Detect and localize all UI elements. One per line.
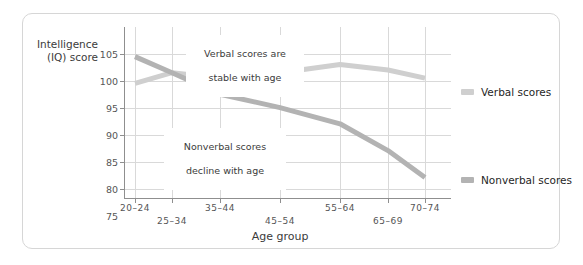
nonverbal-annotation-line-1: Nonverbal scores [168,141,282,153]
x-axis-title: Age group [175,230,385,243]
y-tick-label-105: 105 [92,49,118,60]
legend-swatch-icon-nonverbal [461,177,474,183]
x-tick-label-55-64: 55–64 [313,203,367,213]
y-axis-title: Intelligence (IQ) score [28,38,98,64]
x-tick-mark-65-69 [388,199,389,203]
y-tick-label-95: 95 [92,103,118,114]
nonverbal-annotation: Nonverbal scores decline with age [164,128,286,190]
y-tick-label-90: 90 [92,130,118,141]
y-tick-label-85: 85 [92,157,118,168]
verbal-annotation-line-1: Verbal scores are [190,48,300,60]
x-tick-label-45-54: 45–54 [253,216,307,226]
verbal-annotation: Verbal scores are stable with age [186,35,304,97]
y-tick-label-80: 80 [92,184,118,195]
y-tick-label-100: 100 [92,76,118,87]
x-tick-label-70-74: 70–74 [398,203,452,213]
x-tick-mark-25-34 [172,199,173,203]
legend-swatch-icon-verbal [461,89,474,95]
x-tick-label-20-24: 20–24 [108,203,162,213]
plot-area: Verbal scores are stable with age Nonver… [124,27,451,199]
chart-figure: Intelligence (IQ) score [0,0,583,265]
legend-label-verbal: Verbal scores [481,86,551,98]
legend-item-verbal: Verbal scores [461,86,551,98]
verbal-annotation-line-2: stable with age [190,72,300,84]
x-tick-label-35-44: 35–44 [193,203,247,213]
nonverbal-annotation-line-2: decline with age [168,165,282,177]
x-tick-mark-45-54 [280,199,281,203]
x-tick-label-65-69: 65–69 [361,216,415,226]
y-axis-title-line-2: (IQ) score [28,51,98,64]
legend-item-nonverbal: Nonverbal scores [461,174,572,186]
x-tick-label-25-34: 25–34 [145,216,199,226]
y-axis-title-line-1: Intelligence [28,38,98,51]
legend-label-nonverbal: Nonverbal scores [481,174,572,186]
